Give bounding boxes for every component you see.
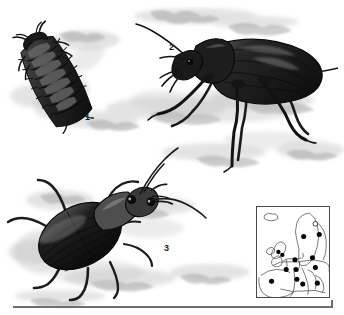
plate-baseline-end-tick bbox=[331, 300, 333, 308]
beetle-3-pronotum bbox=[88, 186, 143, 236]
beetle-3-antennae bbox=[140, 148, 206, 218]
larva-shadow bbox=[28, 39, 109, 126]
plate-baseline-rule bbox=[13, 306, 333, 308]
illustration-plate: 1 2 3 bbox=[0, 0, 344, 315]
figure-label-2: 2 bbox=[169, 42, 174, 52]
beetle-2-pronotum bbox=[192, 39, 234, 83]
distribution-map[interactable] bbox=[256, 206, 330, 298]
beetle-2-elytra bbox=[210, 39, 338, 104]
beetle-3-legs bbox=[8, 180, 152, 300]
beetle-3-shadow bbox=[14, 218, 184, 284]
beetle-2-head bbox=[136, 24, 203, 92]
beetle-3-elytra bbox=[27, 189, 133, 283]
beetle-2-legs-near bbox=[148, 72, 316, 172]
distribution-map-graphic bbox=[257, 207, 329, 297]
beetle-2-legs-far bbox=[172, 72, 308, 160]
figure-label-3: 3 bbox=[164, 243, 169, 253]
figure-label-1: 1 bbox=[85, 112, 90, 122]
beetle-2-shadow bbox=[130, 90, 312, 149]
beetle-3-head bbox=[120, 176, 176, 225]
